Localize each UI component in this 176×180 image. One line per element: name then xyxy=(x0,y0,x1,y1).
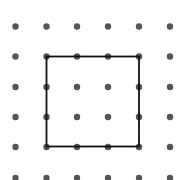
grid-dot xyxy=(74,175,80,180)
grid-dot xyxy=(167,84,173,90)
grid-dot xyxy=(105,84,111,90)
grid-dot xyxy=(74,84,80,90)
grid-dot xyxy=(74,23,80,29)
dot-grid-diagram xyxy=(0,0,176,180)
grid-dot xyxy=(12,23,18,29)
grid-dot xyxy=(74,114,80,120)
grid-dots xyxy=(12,23,173,180)
grid-dot xyxy=(167,53,173,59)
grid-dot xyxy=(12,114,18,120)
grid-dot xyxy=(12,53,18,59)
grid-dot xyxy=(12,144,18,150)
grid-dot xyxy=(167,114,173,120)
square-outline xyxy=(47,57,140,147)
grid-dot xyxy=(43,175,49,180)
grid-dot xyxy=(167,23,173,29)
grid-dot xyxy=(12,175,18,180)
grid-dot xyxy=(12,84,18,90)
grid-dot xyxy=(105,23,111,29)
grid-dot xyxy=(136,175,142,180)
grid-dot xyxy=(167,144,173,150)
grid-dot xyxy=(136,23,142,29)
grid-dot xyxy=(167,175,173,180)
grid-dot xyxy=(105,114,111,120)
grid-dot xyxy=(43,23,49,29)
grid-dot xyxy=(105,175,111,180)
